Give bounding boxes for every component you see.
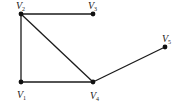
node-label-v4: V4 <box>90 90 99 102</box>
edge-v2-v4 <box>21 14 93 82</box>
node-label-v3: V3 <box>88 0 97 12</box>
node-v5 <box>163 45 168 50</box>
node-label-v5: V5 <box>162 33 171 45</box>
node-v3 <box>91 12 96 17</box>
nodes <box>19 12 168 85</box>
edge-v4-v5 <box>93 47 165 82</box>
node-v1 <box>19 80 24 85</box>
graph-diagram: V1V2V3V4V5 <box>0 0 181 108</box>
edges <box>21 14 165 82</box>
node-v2 <box>19 12 24 17</box>
node-label-v2: V2 <box>16 0 25 12</box>
node-label-v1: V1 <box>17 89 26 101</box>
node-v4 <box>91 80 96 85</box>
